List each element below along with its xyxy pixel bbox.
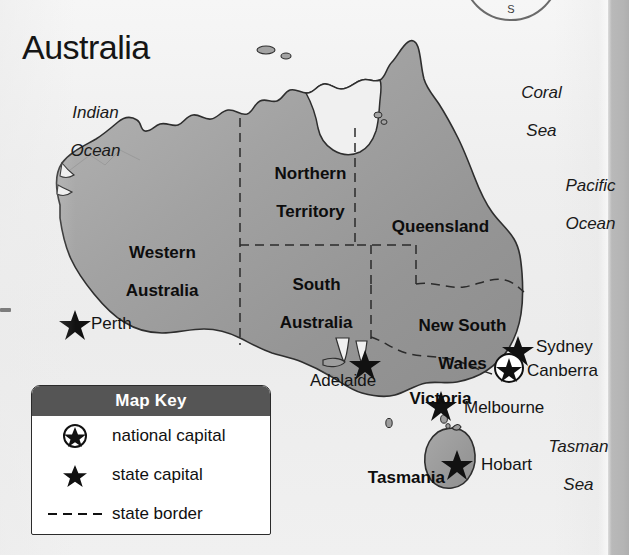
legend-row-state-border: state border [32, 494, 270, 533]
legend-label-national-capital: national capital [112, 426, 225, 446]
map-page: Australia S Indian Ocean Coral Sea Pacif… [0, 0, 629, 555]
map-key-title: Map Key [115, 391, 186, 411]
star-icon [38, 461, 112, 489]
marker-perth [59, 310, 91, 340]
dashed-line-icon [38, 508, 112, 520]
page-gutter-strip [608, 0, 629, 555]
compass-rose [463, 0, 559, 20]
mainland-australia [57, 41, 523, 397]
marker-canberra [495, 354, 523, 382]
map-key-legend: Map Key national capital state capital [31, 385, 271, 535]
page-edge-mark [0, 308, 11, 312]
legend-label-state-border: state border [112, 504, 203, 524]
legend-row-state-capital: state capital [32, 455, 270, 494]
legend-label-state-capital: state capital [112, 465, 203, 485]
map-key-header: Map Key [32, 386, 270, 416]
circled-star-icon [38, 422, 112, 450]
legend-row-national-capital: national capital [32, 416, 270, 455]
tasmania-island [386, 415, 475, 488]
